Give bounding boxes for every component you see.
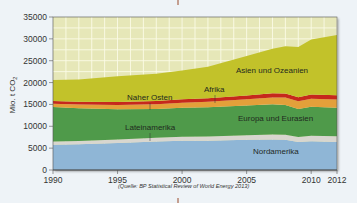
label-lateinamerika: Lateinamerika	[125, 123, 176, 132]
label-asien-ozeanien: Asien und Ozeanien	[236, 66, 308, 75]
svg-text:Mio. t CO2: Mio. t CO2	[8, 77, 18, 114]
label-naher-osten: Naher Osten	[127, 93, 172, 102]
x-tick-label: 2010	[302, 175, 321, 185]
chart-container: 05000100001500020000250003000035000 1990…	[0, 0, 357, 203]
y-axis-title: Mio. t CO2	[8, 77, 18, 114]
x-tick-label: 2012	[328, 175, 347, 185]
x-tick-label: 1990	[44, 175, 63, 185]
y-tick-label: 25000	[23, 56, 47, 66]
y-tick-label: 15000	[23, 99, 47, 109]
label-nordamerika: Nordamerika	[253, 147, 299, 156]
y-tick-label: 10000	[23, 121, 47, 131]
y-tick-label: 30000	[23, 34, 47, 44]
stacked-area-chart: 05000100001500020000250003000035000 1990…	[0, 0, 357, 203]
y-tick-label: 0	[42, 165, 47, 175]
y-tick-label: 35000	[23, 12, 47, 22]
y-tick-label: 20000	[23, 78, 47, 88]
label-afrika: Afrika	[204, 85, 225, 94]
source-note: (Quelle: BP Statistical Review of World …	[118, 183, 249, 189]
label-europa-eurasien: Europa und Eurasien	[238, 114, 313, 123]
y-tick-label: 5000	[28, 143, 47, 153]
